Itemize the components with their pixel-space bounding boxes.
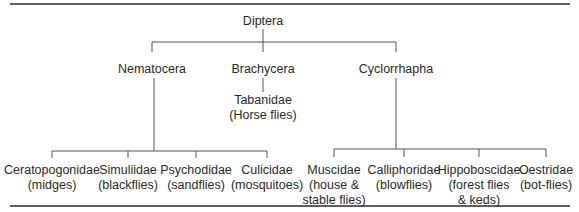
common-name: (midges) bbox=[4, 178, 100, 193]
family-name: Hippoboscidae bbox=[438, 163, 521, 178]
family-name: Calliphoridae bbox=[368, 163, 441, 178]
node-simuliidae: Simuliidae (blackflies) bbox=[98, 163, 158, 193]
common-name-line1: (forest flies bbox=[438, 178, 521, 193]
node-oestridae: Oestridae (bot-flies) bbox=[519, 163, 573, 193]
common-name-line1: (house & bbox=[302, 178, 365, 193]
common-name: (bot-flies) bbox=[519, 178, 573, 193]
node-muscidae: Muscidae (house & stable flies) bbox=[302, 163, 365, 208]
family-name: Culicidae bbox=[231, 163, 303, 178]
node-hippoboscidae: Hippoboscidae (forest flies & keds) bbox=[438, 163, 521, 208]
node-brachycera: Brachycera bbox=[231, 62, 294, 77]
common-name: (Horse flies) bbox=[229, 108, 296, 123]
node-cyclorrhapha: Cyclorrhapha bbox=[359, 62, 433, 77]
family-name: Ceratopogonidae bbox=[4, 163, 100, 178]
family-name: Simuliidae bbox=[98, 163, 158, 178]
common-name: (blowflies) bbox=[368, 178, 441, 193]
common-name-line2: stable flies) bbox=[302, 193, 365, 208]
node-nematocera: Nematocera bbox=[118, 62, 186, 77]
family-name: Oestridae bbox=[519, 163, 573, 178]
family-name: Muscidae bbox=[302, 163, 365, 178]
common-name-line2: & keds) bbox=[438, 193, 521, 208]
node-culicidae: Culicidae (mosquitoes) bbox=[231, 163, 303, 193]
node-psychodidae: Psychodidae (sandflies) bbox=[160, 163, 232, 193]
node-ceratopogonidae: Ceratopogonidae (midges) bbox=[4, 163, 100, 193]
diptera-classification-diagram: Diptera Nematocera Brachycera Cyclorrhap… bbox=[0, 0, 579, 212]
node-calliphoridae: Calliphoridae (blowflies) bbox=[368, 163, 441, 193]
common-name: (sandflies) bbox=[160, 178, 232, 193]
common-name: (blackflies) bbox=[98, 178, 158, 193]
family-name: Psychodidae bbox=[160, 163, 232, 178]
node-tabanidae: Tabanidae (Horse flies) bbox=[229, 93, 296, 123]
node-diptera: Diptera bbox=[243, 14, 283, 29]
common-name: (mosquitoes) bbox=[231, 178, 303, 193]
family-name: Tabanidae bbox=[229, 93, 296, 108]
